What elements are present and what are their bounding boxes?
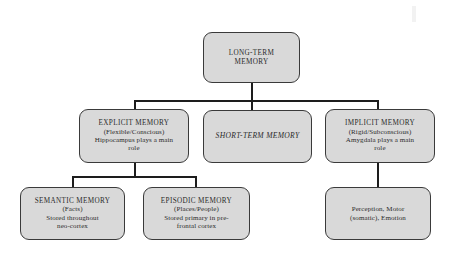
connector-drop-semantic [72, 176, 74, 187]
node-episodic-memory-line2: (Places/People) [144, 205, 249, 213]
connector-drop-episodic [195, 176, 197, 187]
node-long-term-memory-line2: MEMORY [204, 58, 299, 66]
node-explicit-memory-line4: role [80, 144, 188, 152]
node-long-term-memory-line1: LONG-TERM [204, 49, 299, 57]
node-semantic-memory[interactable]: SEMANTIC MEMORY (Facts) Stored throughou… [20, 187, 125, 240]
node-short-term-memory-line1: SHORT-TERM MEMORY [204, 132, 311, 141]
node-semantic-memory-line3: Stored throughout [21, 214, 124, 222]
node-semantic-memory-line4: neo-cortex [21, 222, 124, 230]
node-explicit-memory-line3: Hippocampus plays a main [80, 136, 188, 144]
node-episodic-memory-line4: frontal cortex [144, 222, 249, 230]
node-implicit-memory-line3: Amygdala plays a main [326, 136, 434, 144]
node-implicit-outputs-line2: (somatic), Emotion [326, 214, 430, 222]
connector-level2-bus [72, 176, 197, 178]
node-explicit-memory-line2: (Flexible/Conscious) [80, 128, 188, 136]
node-implicit-memory-line2: (Rigid/Subconscious) [326, 128, 434, 136]
memory-taxonomy-diagram: LONG-TERM MEMORY EXPLICIT MEMORY (Flexib… [0, 0, 455, 260]
node-explicit-memory-line1: EXPLICIT MEMORY [80, 119, 188, 127]
node-semantic-memory-line2: (Facts) [21, 205, 124, 213]
node-episodic-memory-line1: EPISODIC MEMORY [144, 197, 249, 205]
node-explicit-memory[interactable]: EXPLICIT MEMORY (Flexible/Conscious) Hip… [79, 109, 189, 163]
connector-root-stem [251, 83, 253, 101]
node-implicit-outputs-line1: Perception, Motor [326, 205, 430, 213]
node-episodic-memory[interactable]: EPISODIC MEMORY (Places/People) Stored p… [143, 187, 250, 240]
node-implicit-memory-line1: IMPLICIT MEMORY [326, 119, 434, 127]
connector-drop-short-term [251, 100, 253, 110]
node-implicit-memory[interactable]: IMPLICIT MEMORY (Rigid/Subconscious) Amy… [325, 109, 435, 163]
node-episodic-memory-line3: Stored primary in pre- [144, 214, 249, 222]
connector-explicit-stem [134, 163, 136, 177]
node-implicit-memory-line4: role [326, 144, 434, 152]
connector-implicit-to-outputs [377, 163, 379, 187]
connector-level1-bus [134, 100, 378, 102]
node-semantic-memory-line1: SEMANTIC MEMORY [21, 197, 124, 205]
node-long-term-memory[interactable]: LONG-TERM MEMORY [203, 32, 300, 83]
node-implicit-outputs[interactable]: Perception, Motor (somatic), Emotion [325, 187, 431, 240]
node-short-term-memory[interactable]: SHORT-TERM MEMORY [203, 110, 312, 163]
scan-artifact [412, 6, 416, 22]
